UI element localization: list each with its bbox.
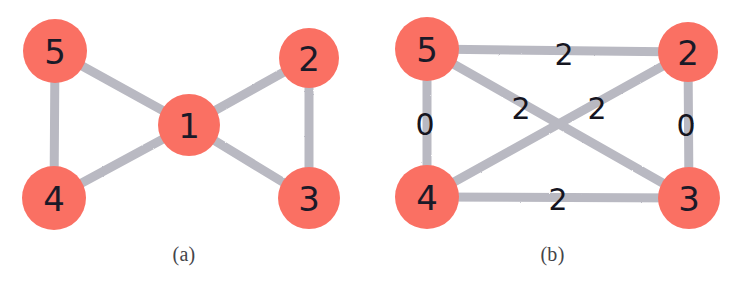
node-3[interactable]: 3 — [658, 167, 720, 229]
edge-label-2-3: 0 — [676, 108, 695, 143]
edge-label-5-4: 0 — [415, 107, 434, 142]
node-5[interactable]: 5 — [23, 19, 87, 83]
node-5-label: 5 — [44, 32, 66, 72]
node-5-label: 5 — [416, 30, 438, 70]
edge-label-5-3: 2 — [511, 91, 530, 126]
node-4-label: 4 — [43, 179, 65, 219]
node-5[interactable]: 5 — [395, 17, 459, 81]
figure-root: 5 2 1 4 3 (a) — [0, 0, 737, 296]
edge-label-4-3: 2 — [548, 182, 567, 217]
node-4-label: 4 — [416, 178, 438, 218]
caption-a: (a) — [0, 243, 368, 266]
node-4[interactable]: 4 — [395, 165, 459, 229]
node-4[interactable]: 4 — [22, 166, 86, 230]
graph-panel-a: 5 2 1 4 3 (a) — [0, 0, 368, 296]
graph-a-canvas: 5 2 1 4 3 — [0, 0, 368, 240]
graph-b-canvas: 2 0 0 2 2 2 5 2 4 — [368, 0, 737, 240]
node-2[interactable]: 2 — [279, 28, 339, 88]
node-1-label: 1 — [178, 106, 200, 146]
node-3-label: 3 — [298, 179, 320, 219]
caption-b: (b) — [368, 243, 737, 266]
node-2-label: 2 — [677, 33, 699, 73]
node-3[interactable]: 3 — [278, 167, 340, 229]
node-2[interactable]: 2 — [658, 22, 718, 82]
edge-label-5-2: 2 — [554, 37, 573, 72]
node-2-label: 2 — [298, 39, 320, 79]
edge-label-4-2: 2 — [587, 91, 606, 126]
node-3-label: 3 — [678, 179, 700, 219]
graph-panel-b: 2 0 0 2 2 2 5 2 4 — [368, 0, 737, 296]
node-1[interactable]: 1 — [158, 94, 220, 156]
graph-a-nodes: 5 2 1 4 3 — [22, 19, 340, 230]
